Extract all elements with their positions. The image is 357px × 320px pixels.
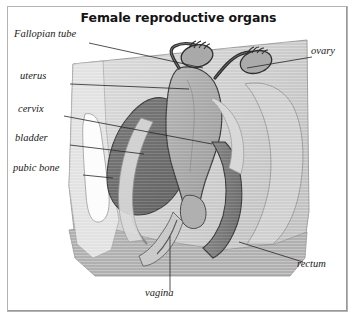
cervix-structure [180, 195, 206, 228]
figure-page: Female reproductive organs [0, 0, 357, 320]
label-cervix: cervix [18, 103, 44, 114]
label-fallopian-tube: Fallopian tube [14, 28, 76, 39]
label-rectum: rectum [297, 258, 326, 269]
label-pubic-bone: pubic bone [13, 162, 59, 173]
label-ovary: ovary [311, 45, 335, 56]
label-bladder: bladder [15, 132, 48, 143]
label-vagina: vagina [145, 287, 174, 298]
label-uterus: uterus [20, 70, 46, 81]
